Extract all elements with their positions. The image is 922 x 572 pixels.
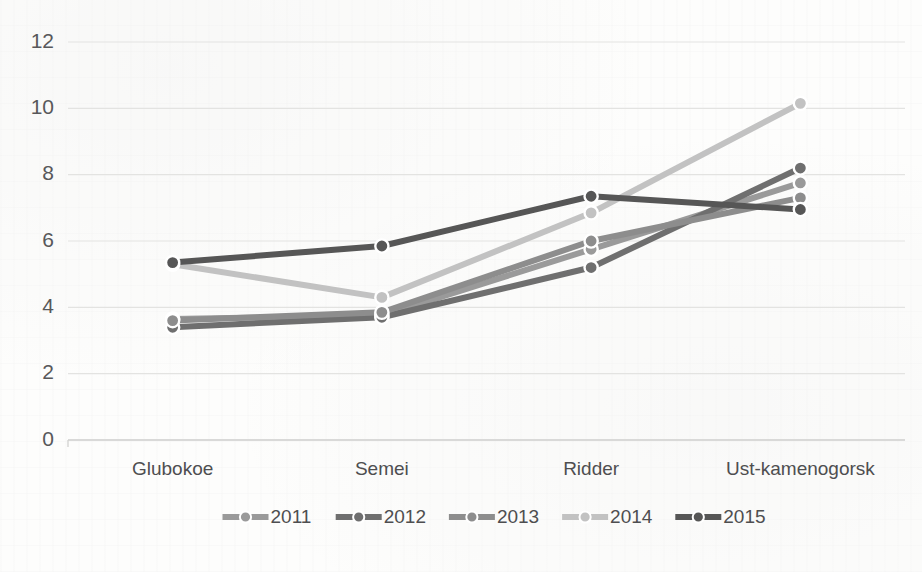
- chart-canvas: 024681012 GlubokoeSemeiRidderUst-kamenog…: [0, 0, 922, 572]
- legend-item-2013[interactable]: 2013: [449, 506, 539, 527]
- gridlines-group: [68, 42, 905, 440]
- legend-item-2011[interactable]: 2011: [223, 506, 312, 527]
- x-axis-line-group: [68, 440, 905, 447]
- line-chart: 024681012 GlubokoeSemeiRidderUst-kamenog…: [0, 0, 922, 572]
- chart-legend: 20112012201320142015: [223, 506, 766, 527]
- data-point-2014-ust-kamenogorsk: [794, 97, 807, 110]
- legend-label-2011: 2011: [271, 506, 312, 527]
- series-line-2014: [173, 103, 801, 297]
- y-tick-label-4: 4: [42, 294, 54, 317]
- legend-swatch-marker-2012: [353, 511, 364, 522]
- legend-swatch-marker-2011: [240, 511, 251, 522]
- x-tick-label-ust-kamenogorsk: Ust-kamenogorsk: [726, 458, 875, 479]
- data-point-2014-ridder: [585, 206, 598, 219]
- legend-swatch-marker-2015: [693, 511, 704, 522]
- data-point-2013-glubokoe: [166, 314, 179, 327]
- y-tick-label-12: 12: [31, 29, 54, 52]
- legend-label-2013: 2013: [497, 506, 539, 527]
- series-line-2012: [173, 168, 801, 327]
- series-lines-group: [173, 103, 801, 327]
- legend-item-2015[interactable]: 2015: [675, 506, 765, 527]
- y-axis-tick-labels: 024681012: [31, 29, 55, 450]
- legend-label-2012: 2012: [384, 506, 426, 527]
- y-tick-label-6: 6: [42, 228, 54, 251]
- legend-label-2014: 2014: [610, 506, 653, 527]
- series-line-2013: [173, 198, 801, 321]
- data-point-2015-glubokoe: [166, 256, 179, 269]
- data-point-2015-ridder: [585, 190, 598, 203]
- data-point-2013-ridder: [585, 234, 598, 247]
- data-point-2015-ust-kamenogorsk: [794, 203, 807, 216]
- data-point-2012-ust-kamenogorsk: [794, 161, 807, 174]
- legend-swatch-marker-2014: [580, 511, 591, 522]
- legend-label-2015: 2015: [723, 506, 765, 527]
- legend-swatch-marker-2013: [466, 511, 477, 522]
- data-point-2015-semei: [375, 239, 388, 252]
- legend-item-2014[interactable]: 2014: [562, 506, 653, 527]
- legend-item-2012[interactable]: 2012: [336, 506, 426, 527]
- data-point-2011-ust-kamenogorsk: [794, 176, 807, 189]
- data-point-2013-semei: [375, 306, 388, 319]
- data-point-2012-ridder: [585, 261, 598, 274]
- y-tick-label-8: 8: [42, 161, 54, 184]
- data-point-2014-semei: [375, 291, 388, 304]
- x-tick-label-ridder: Ridder: [563, 458, 620, 479]
- y-tick-label-0: 0: [42, 427, 54, 450]
- x-tick-label-semei: Semei: [355, 458, 409, 479]
- x-tick-label-glubokoe: Glubokoe: [132, 458, 213, 479]
- y-tick-label-2: 2: [42, 360, 54, 383]
- x-axis-tick-labels: GlubokoeSemeiRidderUst-kamenogorsk: [132, 458, 875, 479]
- y-tick-label-10: 10: [31, 95, 54, 118]
